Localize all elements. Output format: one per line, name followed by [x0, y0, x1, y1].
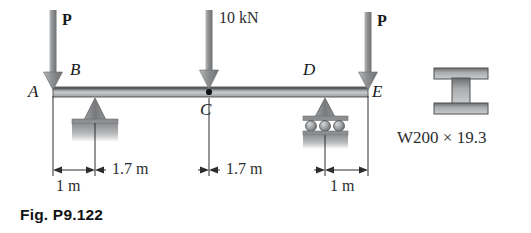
point-d-label: D — [303, 61, 315, 78]
dimension-arrows — [53, 167, 368, 174]
point-c-label: C — [200, 101, 211, 118]
dim-1m-right-label: 1 m — [330, 178, 354, 194]
point-c-marker — [206, 89, 212, 95]
section-designation-label: W200 × 19.3 — [397, 129, 486, 146]
load-arrow-p-right — [359, 12, 378, 90]
point-b-label: B — [70, 61, 80, 78]
dim-1m-left-label: 1 m — [56, 178, 80, 194]
point-e-label: E — [372, 83, 382, 100]
load-p-left-label: P — [62, 12, 72, 28]
dim-1p7-right-label: 1.7 m — [226, 161, 262, 177]
point-a-label: A — [28, 83, 38, 100]
load-arrow-p-left — [44, 10, 63, 90]
dim-1p7-left-label: 1.7 m — [112, 161, 148, 177]
figure-graphics — [0, 0, 531, 233]
load-p-right-label: P — [377, 13, 387, 29]
wide-flange-section-icon — [434, 68, 488, 114]
load-arrow-center — [200, 10, 219, 89]
figure-caption: Fig. P9.122 — [20, 207, 103, 223]
load-center-label: 10 kN — [219, 10, 259, 26]
beam-loading-figure: A B C D E P 10 kN P 1 m 1.7 m 1.7 m 1 m … — [0, 0, 531, 233]
